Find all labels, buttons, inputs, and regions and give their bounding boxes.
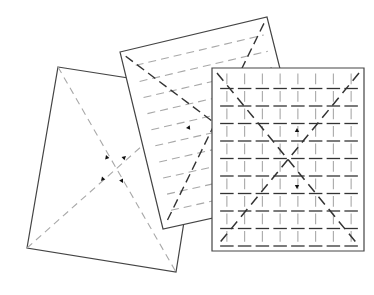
folding-diagram (0, 0, 374, 295)
right-sheet (212, 68, 364, 251)
